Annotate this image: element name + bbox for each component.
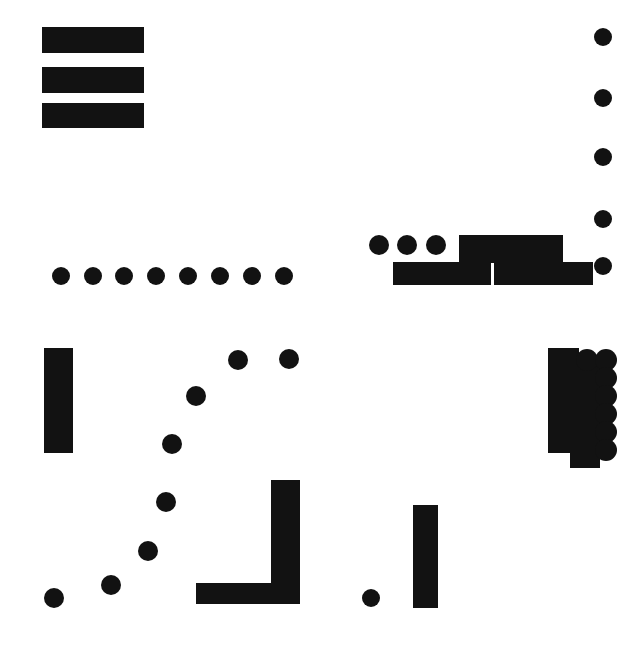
right-block-and-dot-column-cluster-dot-8 [595, 439, 617, 461]
right-block-and-dot-column-cluster [0, 0, 642, 649]
composition-canvas [0, 0, 642, 649]
